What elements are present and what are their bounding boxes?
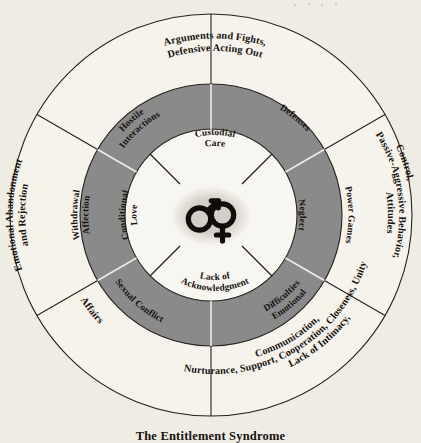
inner-label-conditional-line2: Love bbox=[128, 204, 139, 226]
inner-label-neglect: Neglect bbox=[296, 199, 308, 233]
entitlement-syndrome-figure: Arguments and Fights, Defensive Acting O… bbox=[0, 0, 421, 443]
outer-label-control-line3: Attitudes bbox=[384, 191, 397, 234]
center-gender-symbols bbox=[171, 186, 251, 246]
figure-caption: The Entitlement Syndrome bbox=[0, 429, 421, 443]
inner-label-custodial-line2: Care bbox=[204, 138, 225, 149]
wheel-diagram: Arguments and Fights, Defensive Acting O… bbox=[0, 0, 421, 443]
